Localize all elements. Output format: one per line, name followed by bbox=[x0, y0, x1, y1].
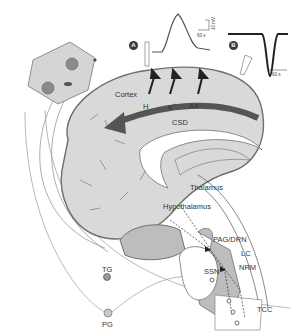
label-h: H bbox=[143, 103, 148, 111]
label-k: K+ bbox=[168, 102, 176, 111]
time-scale-b: 60 s bbox=[272, 72, 281, 77]
label-nrm: NRM bbox=[239, 264, 256, 272]
amplitude-scale-a: 10 mV bbox=[211, 17, 216, 30]
label-cortex: Cortex bbox=[115, 91, 137, 99]
cell-icon bbox=[42, 82, 54, 94]
electrode-a bbox=[145, 42, 149, 66]
label-tg: TG bbox=[102, 266, 112, 274]
neuron-icon bbox=[231, 310, 235, 314]
label-pag-drn: PAG/DRN bbox=[213, 236, 247, 244]
meningeal-tile bbox=[28, 42, 95, 104]
pg-ganglion-icon bbox=[104, 309, 112, 317]
cell-icon bbox=[66, 58, 78, 70]
label-aa: AA bbox=[189, 103, 199, 111]
label-hypothalamus: Hypothalamus bbox=[163, 203, 211, 211]
neuron-icon bbox=[227, 299, 231, 303]
vessel-icon bbox=[64, 82, 72, 86]
label-csd: CSD bbox=[172, 119, 188, 127]
label-ssn: SSN bbox=[204, 268, 219, 276]
migraine-pathway-diagram: A B 60 s 10 mV 60 s Cortex H K+ AA CSD T… bbox=[0, 0, 293, 336]
label-pg: PG bbox=[102, 321, 113, 329]
panel-a-badge: A bbox=[129, 41, 138, 50]
time-scale-a: 60 s bbox=[197, 33, 206, 38]
neuron-icon bbox=[235, 321, 239, 325]
trace-b bbox=[228, 34, 288, 76]
label-lc: LC bbox=[241, 250, 251, 258]
electrode-b bbox=[240, 55, 252, 75]
label-thalamus: Thalamus bbox=[190, 184, 223, 192]
brain-illustration bbox=[0, 0, 293, 336]
nerve-ending-icon bbox=[93, 58, 96, 61]
ssn-neuron-icon bbox=[210, 278, 214, 282]
panel-b-badge: B bbox=[229, 41, 238, 50]
scale-bar-a bbox=[198, 20, 209, 30]
tg-ganglion-icon bbox=[104, 274, 111, 281]
label-tcc: TCC bbox=[257, 306, 272, 314]
